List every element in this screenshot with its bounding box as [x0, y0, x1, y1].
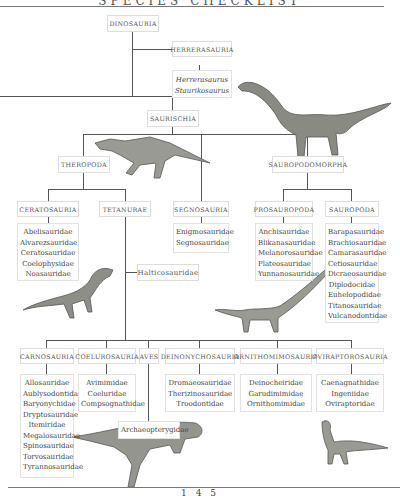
- node-saurischia: Saurischia: [147, 110, 199, 127]
- member: Segnosauridae: [176, 238, 226, 249]
- member: Staurikosaurus: [175, 86, 229, 97]
- member: Avimimidae: [81, 378, 133, 389]
- member: Spinosauridae: [23, 441, 71, 452]
- member: Anchisauridae: [258, 227, 310, 238]
- carnosauria-members: Allosauridae Aublysodontidae Baryonychid…: [20, 374, 74, 478]
- member: Vulcanodontidae: [328, 311, 376, 322]
- deinonychosauria-members: Dromaeosauridae Therizinosauridae Troodo…: [165, 374, 235, 412]
- member: Melanorosauridae: [258, 248, 310, 259]
- member: Ceratosauridae: [20, 248, 76, 259]
- member: Therizinosauridae: [168, 389, 232, 400]
- member: Megalosauridae: [23, 431, 71, 442]
- member: Oviraptoridae: [319, 399, 381, 410]
- node-ornithomimosauria: Ornithomimosauria: [240, 348, 312, 364]
- ceratosauria-members: Abelisauridae Alvarezsauridae Ceratosaur…: [17, 223, 79, 281]
- node-deinonychosauria: Deinonychosauria: [165, 348, 235, 364]
- member: Aublysodontidae: [23, 389, 71, 400]
- member: Ornithomimidae: [243, 399, 309, 410]
- member: Euhelopodidae: [328, 290, 376, 301]
- segnosauria-members: Enigmosauridae Segnosauridae: [173, 223, 229, 253]
- member: Cetiosauridae: [328, 259, 376, 270]
- member: Deinocheiridae: [243, 378, 309, 389]
- sauropoda-members: Barapasauridae Brachiosauridae Camarasau…: [325, 223, 379, 323]
- header-rule: [0, 6, 384, 7]
- sauropod-illustration: [236, 75, 396, 165]
- node-coelurosauria: Coelurosauria: [78, 348, 136, 364]
- node-segnosauria: Segnosauria: [173, 201, 229, 217]
- member: Baryonychidae: [23, 399, 71, 410]
- coelurosauria-members: Avimimidae Coeluridae Compsognathidae: [78, 374, 136, 412]
- member: Caenagnathidae: [319, 378, 381, 389]
- member: Garudimimidae: [243, 389, 309, 400]
- node-prosauropoda: Prosauropoda: [255, 201, 313, 217]
- node-dinosauria: Dinosauria: [107, 15, 159, 32]
- member: Archaeopterygidae: [121, 425, 177, 436]
- node-carnosauria: Carnosauria: [20, 348, 74, 364]
- member: Yunnanosauridae: [258, 269, 310, 280]
- herrerasauria-members: Herrerasaurus Staurikosaurus: [172, 70, 232, 98]
- member: Itemiridae: [23, 420, 71, 431]
- member: Herrerasaurus: [175, 75, 229, 86]
- member: Coelophysidae: [20, 259, 76, 270]
- member: Compsognathidae: [81, 399, 133, 410]
- member: Barapasauridae: [328, 227, 376, 238]
- node-oviraptorosauria: Oviraptorosauria: [316, 348, 384, 364]
- member: Ingeniidae: [319, 389, 381, 400]
- node-tetanurae: Tetanurae: [99, 201, 151, 217]
- page-number: 1 4 5: [0, 488, 400, 498]
- oviraptorosaur-illustration: [316, 418, 391, 468]
- node-herrerasauria: Herrerasauria: [172, 41, 232, 57]
- member: Camarasauridae: [328, 248, 376, 259]
- member: Allosauridae: [23, 378, 71, 389]
- node-halticosauridae: Halticosauridae: [137, 264, 199, 281]
- member: Dryptosauridae: [23, 410, 71, 421]
- member: Tyrannosauridae: [23, 462, 71, 473]
- node-sauropoda: Sauropoda: [325, 201, 379, 217]
- prosauropoda-members: Anchisauridae Blikanasauridae Melanorosa…: [255, 223, 313, 281]
- member: Abelisauridae: [20, 227, 76, 238]
- member: Blikanasauridae: [258, 238, 310, 249]
- member: Titanosauridae: [328, 301, 376, 312]
- node-theropoda: Theropoda: [58, 156, 110, 173]
- member: Troodontidae: [168, 399, 232, 410]
- member: Enigmosauridae: [176, 227, 226, 238]
- node-sauropodomorpha: Sauropodomorpha: [272, 156, 344, 173]
- member: Torvosauridae: [23, 452, 71, 463]
- member: Dicraeosauridae: [328, 269, 376, 280]
- member: Plateosauridae: [258, 259, 310, 270]
- member: Brachiosauridae: [328, 238, 376, 249]
- ornithomimosauria-members: Deinocheiridae Garudimimidae Ornithomimi…: [240, 374, 312, 412]
- oviraptorosauria-members: Caenagnathidae Ingeniidae Oviraptoridae: [316, 374, 384, 412]
- node-aves: Aves: [139, 348, 159, 364]
- member: Coeluridae: [81, 389, 133, 400]
- node-ceratosauria: Ceratosauria: [17, 201, 79, 217]
- aves-members: Archaeopterygidae: [118, 421, 180, 439]
- member: Diplodocidae: [328, 280, 376, 291]
- member: Dromaeosauridae: [168, 378, 232, 389]
- member: Noasauridae: [20, 269, 76, 280]
- member: Alvarezsauridae: [20, 238, 76, 249]
